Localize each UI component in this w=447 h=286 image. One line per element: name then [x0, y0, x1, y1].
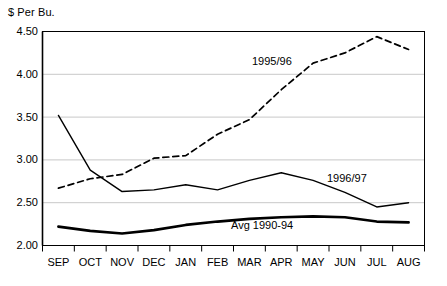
plot-area: [0, 0, 447, 286]
x-axis-ticks: [43, 246, 425, 252]
x-axis-tick-label: JAN: [175, 256, 196, 268]
x-axis-tick-label: FEB: [207, 256, 228, 268]
chart-container: $ Per Bu. 4.504.003.503.002.502.00 SEPOC…: [0, 0, 447, 286]
x-axis-tick-label: APR: [270, 256, 293, 268]
x-axis-tick-label: AUG: [397, 256, 421, 268]
series-label-1996-97: 1996/97: [327, 172, 367, 184]
x-axis-tick-label: NOV: [110, 256, 134, 268]
gridlines: [43, 74, 425, 202]
x-axis-tick-label: SEP: [47, 256, 69, 268]
x-axis-tick-label: OCT: [79, 256, 102, 268]
x-axis-tick-label: MAR: [237, 256, 261, 268]
series-label-1995-96: 1995/96: [252, 55, 292, 67]
series-line: [58, 37, 408, 189]
x-axis-tick-labels: SEPOCTNOVDECJANFEBMARAPRMAYJUNJULAUG: [0, 256, 447, 272]
plot-border: [43, 32, 425, 246]
x-axis-tick-label: JUL: [367, 256, 387, 268]
plot-frame: [43, 32, 425, 246]
x-axis-tick-label: MAY: [302, 256, 325, 268]
x-axis-tick-label: DEC: [142, 256, 165, 268]
data-series: [58, 37, 408, 234]
x-axis-tick-label: JUN: [334, 256, 355, 268]
series-line: [58, 115, 408, 207]
series-label-avg-1990-94: Avg 1990-94: [231, 219, 293, 231]
